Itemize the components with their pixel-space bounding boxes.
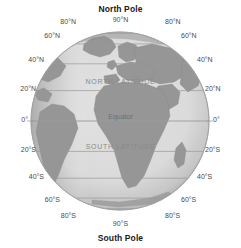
tick-40N-right: 40°N bbox=[197, 56, 237, 63]
tick-80N-left: 80°N bbox=[36, 18, 76, 25]
north-pole-label: North Pole bbox=[0, 4, 241, 14]
globe-latitude-figure: North Pole South Pole 90°N 90°S 80°N 60°… bbox=[0, 0, 241, 248]
tick-60N-left: 60°N bbox=[20, 32, 60, 39]
north-latitude-zone-label: NORTH LATITUDE bbox=[0, 78, 241, 85]
tick-80N-right: 80°N bbox=[165, 18, 205, 25]
south-pole-label: South Pole bbox=[0, 233, 241, 243]
tick-60S-right: 60°S bbox=[181, 196, 221, 203]
tick-60N-right: 60°N bbox=[181, 32, 221, 39]
tick-20N-left: 20°N bbox=[0, 85, 36, 92]
tick-40S-left: 40°S bbox=[4, 173, 44, 180]
south-latitude-zone-label: SOUTH LATITUDE bbox=[0, 143, 241, 150]
tick-40S-right: 40°S bbox=[197, 173, 237, 180]
tick-60S-left: 60°S bbox=[20, 196, 60, 203]
tick-90S: 90°S bbox=[0, 220, 241, 227]
tick-80S-right: 80°S bbox=[165, 212, 205, 219]
tick-20N-right: 20°N bbox=[205, 85, 241, 92]
tick-40N-left: 40°N bbox=[4, 56, 44, 63]
equator-label: Equator bbox=[0, 113, 241, 120]
tick-80S-left: 80°S bbox=[36, 212, 76, 219]
